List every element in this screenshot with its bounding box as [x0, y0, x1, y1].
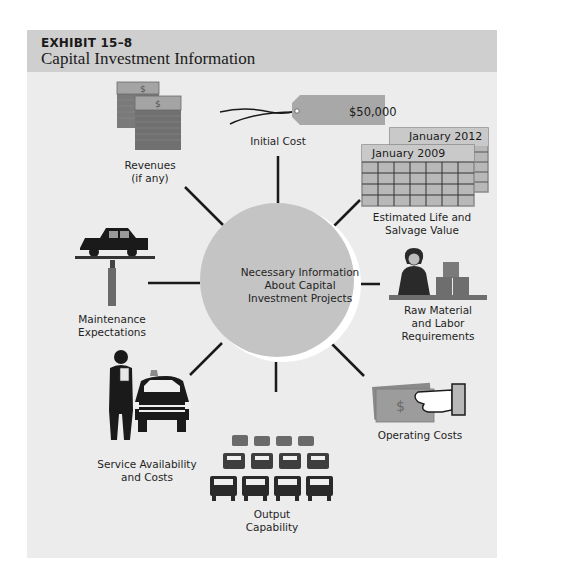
node-initial-cost: Initial Cost — [250, 135, 306, 148]
node-operating-costs: Operating Costs — [378, 429, 463, 442]
node-revenues: Revenues (if any) — [124, 159, 175, 185]
svg-text:$: $ — [396, 398, 405, 414]
svg-text:$: $ — [140, 84, 146, 94]
node-estimated-life: Estimated Life and Salvage Value — [373, 211, 471, 237]
svg-text:$: $ — [155, 99, 161, 109]
node-service: Service Availability and Costs — [97, 458, 196, 484]
hand-money-icon: $ — [372, 383, 465, 422]
center-label: Necessary Information About Capital Inve… — [226, 266, 374, 305]
node-output: Output Capability — [246, 508, 299, 534]
node-raw-material: Raw Material and Labor Requirements — [402, 304, 475, 343]
price-tag-value: $50,000 — [349, 105, 397, 119]
car-fleet-icon — [210, 435, 333, 501]
calendar-front-label: January 2009 — [372, 147, 445, 160]
node-maintenance: Maintenance Expectations — [78, 313, 146, 339]
car-lift-icon — [75, 228, 155, 306]
mechanic-taxi-icon — [109, 350, 191, 440]
money-stacks-icon: $ $ — [117, 82, 181, 150]
worker-boxes-icon — [389, 248, 487, 300]
calendar-back-label: January 2012 — [409, 130, 482, 143]
